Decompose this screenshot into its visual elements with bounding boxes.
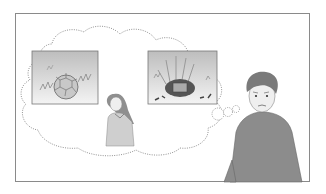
boy-figure	[224, 72, 302, 182]
illustration	[0, 0, 326, 194]
football-icon	[54, 75, 78, 99]
thought-bubble-small-2	[224, 108, 233, 117]
ball-destroyed-picture	[148, 51, 217, 104]
thought-bubble-small-1	[212, 108, 224, 120]
ball-intact-picture	[32, 51, 98, 104]
thought-bubble-small-3	[233, 106, 240, 113]
